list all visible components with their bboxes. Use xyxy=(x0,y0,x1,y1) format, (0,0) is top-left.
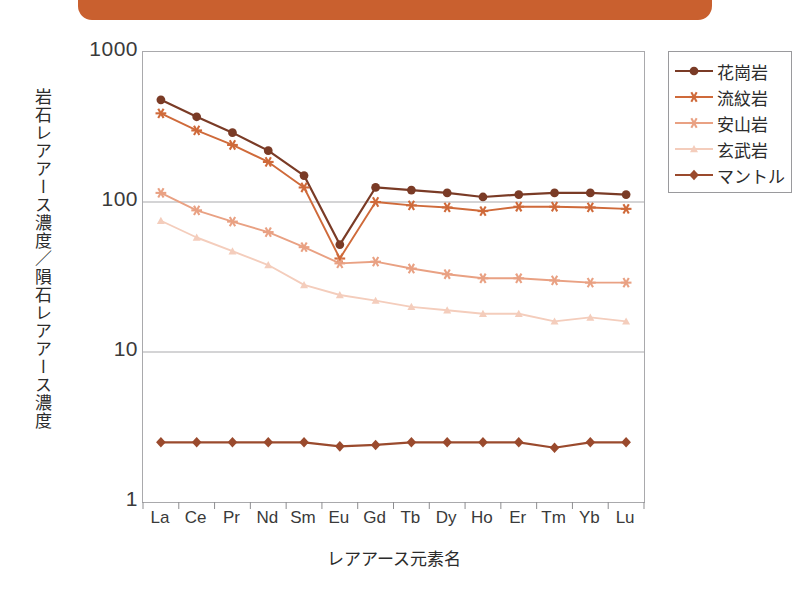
data-point-marker xyxy=(407,186,416,195)
data-point-marker xyxy=(621,278,632,287)
data-point-marker xyxy=(478,206,489,215)
data-point-marker xyxy=(689,92,700,101)
data-point-marker xyxy=(442,203,453,212)
y-axis-tick-labels: 1101001000 xyxy=(58,0,138,590)
data-point-marker xyxy=(371,183,380,192)
data-point-marker xyxy=(191,206,202,215)
data-point-marker xyxy=(191,126,202,135)
data-point-marker xyxy=(549,202,560,211)
legend-key-icon xyxy=(673,86,715,108)
data-point-marker xyxy=(227,140,238,149)
legend-key-icon xyxy=(673,164,715,186)
data-point-marker xyxy=(264,146,273,155)
data-point-marker xyxy=(550,442,560,453)
data-point-marker xyxy=(514,190,523,199)
data-point-marker xyxy=(478,274,489,283)
data-point-marker xyxy=(370,257,381,266)
chart-legend: 花崗岩流紋岩安山岩玄武岩マントル xyxy=(668,51,792,193)
x-tick-label-eu: Eu xyxy=(319,508,359,528)
data-point-marker xyxy=(585,437,595,448)
x-tick-label-gd: Gd xyxy=(355,508,395,528)
data-point-marker xyxy=(263,227,274,236)
legend-label: 花崗岩 xyxy=(715,59,768,84)
x-tick-label-tb: Tb xyxy=(390,508,430,528)
rare-earth-spider-chart: 岩石レアアース濃度／隕石レアアース濃度 1101001000 LaCePrNdS… xyxy=(0,0,805,590)
data-point-marker xyxy=(157,217,165,224)
data-point-marker xyxy=(335,240,344,249)
data-point-marker xyxy=(371,440,381,451)
x-tick-label-pr: Pr xyxy=(211,508,251,528)
data-point-marker xyxy=(549,276,560,285)
x-axis-title: レアアース元素名 xyxy=(142,545,645,570)
legend-key-icon xyxy=(673,138,715,160)
data-point-marker xyxy=(550,189,559,198)
x-tick-label-sm: Sm xyxy=(283,508,323,528)
data-point-marker xyxy=(263,437,273,448)
plot-area xyxy=(142,51,645,503)
data-point-marker xyxy=(585,278,596,287)
chart-page: 岩石レアアース濃度／隕石レアアース濃度 1101001000 LaCePrNdS… xyxy=(0,0,805,590)
data-point-marker xyxy=(690,67,699,76)
x-tick-label-ho: Ho xyxy=(462,508,502,528)
data-point-marker xyxy=(299,242,310,251)
data-point-marker xyxy=(479,193,488,202)
y-tick-label: 1 xyxy=(66,487,138,511)
data-point-marker xyxy=(689,118,700,127)
data-point-marker xyxy=(443,189,452,198)
series-line-3 xyxy=(161,221,626,322)
y-tick-label: 100 xyxy=(66,187,138,211)
x-axis-tick-labels: LaCePrNdSmEuGdTbDyHoErTmYbLu xyxy=(142,508,645,534)
x-tick-label-ce: Ce xyxy=(176,508,216,528)
data-point-marker xyxy=(586,189,595,198)
legend-item-4[interactable]: マントル xyxy=(673,162,787,188)
x-tick-label-tm: Tm xyxy=(534,508,574,528)
y-tick-label: 1000 xyxy=(66,37,138,61)
data-point-marker xyxy=(156,188,167,197)
legend-item-3[interactable]: 玄武岩 xyxy=(673,136,787,162)
plot-svg xyxy=(143,52,644,502)
data-point-marker xyxy=(300,281,308,288)
data-point-marker xyxy=(300,171,309,180)
data-point-marker xyxy=(228,437,238,448)
data-point-marker xyxy=(192,437,202,448)
data-point-marker xyxy=(621,204,632,213)
data-point-marker xyxy=(370,197,381,206)
x-tick-label-la: La xyxy=(140,508,180,528)
data-point-marker xyxy=(585,203,596,212)
y-tick-label: 10 xyxy=(66,337,138,361)
legend-key-icon xyxy=(673,60,715,82)
data-point-marker xyxy=(478,437,488,448)
legend-label: マントル xyxy=(715,163,785,188)
data-point-marker xyxy=(335,441,345,452)
data-point-marker xyxy=(513,274,524,283)
legend-label: 安山岩 xyxy=(715,111,768,136)
x-tick-label-lu: Lu xyxy=(605,508,645,528)
legend-key-icon xyxy=(673,112,715,134)
legend-label: 流紋岩 xyxy=(715,85,768,110)
data-point-marker xyxy=(192,112,201,121)
legend-item-0[interactable]: 花崗岩 xyxy=(673,58,787,84)
data-point-marker xyxy=(406,264,417,273)
legend-item-1[interactable]: 流紋岩 xyxy=(673,84,787,110)
legend-label: 玄武岩 xyxy=(715,137,768,162)
data-point-marker xyxy=(622,190,631,199)
data-point-marker xyxy=(442,437,452,448)
legend-item-2[interactable]: 安山岩 xyxy=(673,110,787,136)
data-point-marker xyxy=(156,109,167,118)
data-point-marker xyxy=(689,170,699,181)
x-tick-label-yb: Yb xyxy=(569,508,609,528)
data-point-marker xyxy=(407,437,417,448)
x-tick-label-er: Er xyxy=(498,508,538,528)
data-point-marker xyxy=(228,128,237,137)
data-point-marker xyxy=(156,437,166,448)
x-tick-label-dy: Dy xyxy=(426,508,466,528)
x-tick-label-nd: Nd xyxy=(247,508,287,528)
data-point-marker xyxy=(157,95,166,104)
data-point-marker xyxy=(227,217,238,226)
data-point-marker xyxy=(299,437,309,448)
data-point-marker xyxy=(621,437,631,448)
data-point-marker xyxy=(514,437,524,448)
data-point-marker xyxy=(513,202,524,211)
y-axis-title: 岩石レアアース濃度／隕石レアアース濃度 xyxy=(22,88,52,430)
data-point-marker xyxy=(442,270,453,279)
